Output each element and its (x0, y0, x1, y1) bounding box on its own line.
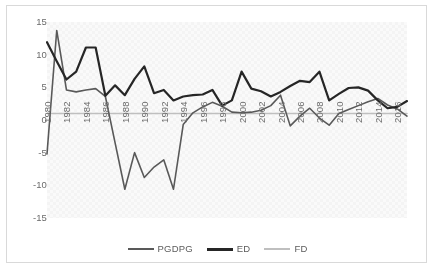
legend-label: PGDPG (158, 244, 193, 254)
legend-item-pgdpg[interactable]: PGDPG (128, 244, 193, 254)
x-axis-tick-label: 1998 (218, 101, 228, 123)
x-axis-tick-label: 1986 (101, 101, 111, 123)
chart-legend: PGDPGEDFD (7, 244, 428, 254)
x-axis-tick-label: 1988 (121, 101, 131, 123)
x-axis-tick-label: 2014 (374, 101, 384, 123)
legend-label: ED (237, 244, 251, 254)
x-axis-tick-label: 1992 (160, 101, 170, 123)
x-axis-tick-label: 2000 (238, 101, 248, 123)
chart-frame: 151050-5-10-15 1980198219841986198819901… (6, 5, 427, 263)
x-axis-tick-label: 2006 (296, 101, 306, 123)
legend-item-ed[interactable]: ED (207, 244, 251, 254)
x-axis-tick-label: 1990 (140, 101, 150, 123)
x-axis-tick-label: 2008 (315, 101, 325, 123)
legend-line-swatch (264, 248, 290, 250)
x-axis-tick-label: 2012 (354, 101, 364, 123)
x-axis-tick-label: 2002 (257, 101, 267, 123)
x-axis-tick-label: 1996 (199, 101, 209, 123)
x-axis-tick-label: 2004 (277, 101, 287, 123)
x-axis-tick-label: 1982 (62, 101, 72, 123)
legend-item-fd[interactable]: FD (264, 244, 307, 254)
x-axis: 1980198219841986198819901992199419961998… (7, 6, 428, 264)
x-axis-tick-label: 2016 (393, 101, 403, 123)
legend-line-swatch (207, 248, 233, 251)
x-axis-tick-label: 1994 (179, 101, 189, 123)
legend-label: FD (294, 244, 307, 254)
x-axis-tick-label: 1984 (82, 101, 92, 123)
legend-line-swatch (128, 248, 154, 250)
x-axis-tick-label: 2010 (335, 101, 345, 123)
x-axis-tick-label: 1980 (43, 101, 53, 123)
